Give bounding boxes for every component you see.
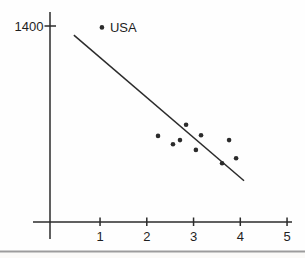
data-point — [184, 122, 189, 127]
y-tick-label: 1400 — [15, 19, 44, 34]
data-point — [227, 138, 232, 143]
x-tick-label: 3 — [190, 229, 197, 244]
scatter-plot: 140012345USA — [0, 0, 305, 258]
x-tick-label: 1 — [96, 229, 103, 244]
data-point — [194, 148, 199, 153]
data-point — [100, 25, 105, 30]
data-point — [234, 156, 239, 161]
footer-strip — [0, 253, 305, 258]
data-point — [178, 138, 183, 143]
data-point — [171, 142, 176, 147]
data-point — [156, 134, 161, 139]
x-tick-label: 4 — [237, 229, 244, 244]
data-point — [199, 133, 204, 138]
point-label-usa: USA — [110, 20, 137, 35]
x-tick-label: 2 — [143, 229, 150, 244]
plot-background — [0, 0, 305, 258]
x-tick-label: 5 — [283, 229, 290, 244]
scatter-plot-figure: 140012345USA — [0, 0, 305, 258]
data-point — [220, 161, 225, 166]
